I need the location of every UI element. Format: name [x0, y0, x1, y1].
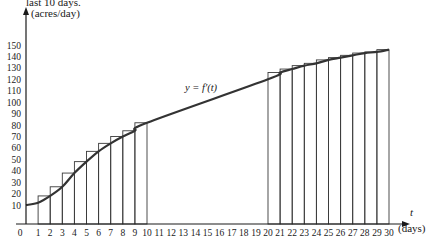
- x-tick-label: 16: [215, 228, 225, 236]
- y-tick-label: 70: [12, 132, 22, 142]
- x-tick-label: 11: [155, 228, 164, 236]
- x-tick-label: 4: [72, 228, 77, 236]
- y-tick-label: 110: [7, 86, 21, 96]
- x-tick-label: 5: [84, 228, 89, 236]
- x-tick-label: 22: [287, 228, 297, 236]
- y-tick-label: 10: [12, 201, 22, 211]
- rectangle-bar: [304, 63, 316, 224]
- x-tick-label: 25: [324, 228, 334, 236]
- y-tick-label: 140: [7, 52, 22, 62]
- x-tick-label: 12: [166, 228, 176, 236]
- rectangle-bar: [87, 151, 99, 224]
- chart: last 10 days. y = f′(t) (acres/day) 1020…: [0, 0, 431, 236]
- x-tick-label: 20: [263, 228, 273, 236]
- x-tick-label: 13: [179, 228, 189, 236]
- x-tick-label: 28: [360, 228, 370, 236]
- x-tick-label: 19: [251, 228, 261, 236]
- x-tick-label: 18: [239, 228, 249, 236]
- x-tick-label: 24: [312, 228, 322, 236]
- y-axis-arrow-icon: [23, 7, 29, 15]
- y-tick-label: 130: [7, 63, 22, 73]
- y-tick-label: 20: [12, 189, 22, 199]
- x-tick-label: 14: [191, 228, 201, 236]
- x-tick-label: 29: [372, 228, 382, 236]
- rectangle-bar: [292, 66, 304, 224]
- rectangle-bar: [268, 72, 280, 224]
- rectangle-bar: [341, 55, 353, 224]
- y-tick-label: 150: [7, 41, 22, 51]
- x-tick-label: 26: [336, 228, 346, 236]
- rectangle-bar: [365, 52, 377, 224]
- x-tick-label: 8: [120, 228, 125, 236]
- x-tick-label: 0: [18, 228, 23, 236]
- y-tick-label: 120: [7, 75, 22, 85]
- x-axis-symbol: t: [410, 206, 414, 218]
- rectangle-bar: [135, 123, 147, 224]
- rectangle-bar: [329, 58, 341, 224]
- x-tick-label: 7: [108, 228, 113, 236]
- curve-label: y = f′(t): [184, 82, 218, 94]
- x-tick-label: 9: [133, 228, 138, 236]
- x-tick-label: 10: [142, 228, 152, 236]
- y-axis-label: (acres/day): [31, 7, 80, 20]
- x-tick-label: 30: [384, 228, 394, 236]
- y-tick-label: 40: [12, 166, 22, 176]
- y-tick-labels: 102030405060708090100110120130140150: [7, 41, 22, 211]
- y-tick-label: 60: [12, 143, 22, 153]
- rectangle-bar: [123, 131, 135, 224]
- x-tick-label: 23: [300, 228, 310, 236]
- x-axis-unit: (days): [398, 222, 426, 235]
- rectangles: [38, 50, 389, 224]
- x-tick-label: 27: [348, 228, 358, 236]
- rectangle-bar: [353, 53, 365, 224]
- rectangle-bar: [280, 69, 292, 224]
- x-tick-label: 2: [48, 228, 53, 236]
- rectangle-bar: [111, 136, 123, 224]
- derivative-curve: [26, 50, 389, 205]
- x-tick-label: 3: [60, 228, 65, 236]
- x-tick-label: 6: [96, 228, 101, 236]
- x-tick-labels: 0123456789101112131415161718192021222324…: [18, 228, 394, 236]
- y-tick-label: 30: [12, 178, 22, 188]
- x-tick-label: 15: [203, 228, 213, 236]
- x-tick-label: 17: [227, 228, 237, 236]
- y-axis: (acres/day) 1020304050607080901001101201…: [7, 7, 80, 224]
- rectangle-bar: [316, 60, 328, 224]
- y-tick-label: 100: [7, 98, 22, 108]
- rectangle-bar: [377, 50, 389, 224]
- x-tick-label: 1: [36, 228, 41, 236]
- rectangle-bar: [99, 143, 111, 224]
- y-tick-label: 80: [12, 121, 22, 131]
- x-tick-label: 21: [275, 228, 285, 236]
- y-tick-label: 50: [12, 155, 22, 165]
- y-tick-label: 90: [12, 109, 22, 119]
